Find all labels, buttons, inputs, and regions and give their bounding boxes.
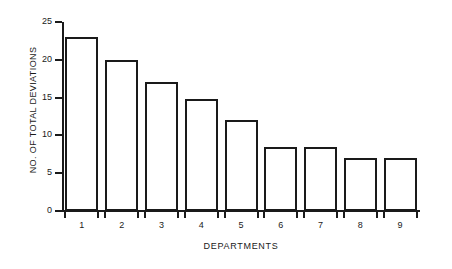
x-axis-title: DEPARTMENTS bbox=[62, 241, 420, 251]
x-tick-mark bbox=[383, 212, 385, 218]
y-tick-mark bbox=[55, 172, 62, 174]
bar bbox=[384, 158, 417, 211]
y-tick-mark bbox=[55, 59, 62, 61]
y-tick-label: 10 bbox=[28, 130, 52, 139]
x-tick-label: 5 bbox=[231, 221, 251, 230]
bar bbox=[225, 120, 258, 211]
x-tick-mark bbox=[137, 212, 139, 218]
x-tick-mark bbox=[104, 212, 106, 218]
bar bbox=[304, 147, 337, 211]
x-tick-mark bbox=[376, 212, 378, 218]
x-tick-label: 6 bbox=[271, 221, 291, 230]
bars-container bbox=[62, 22, 420, 211]
x-tick-label: 3 bbox=[151, 221, 171, 230]
x-tick-mark bbox=[64, 212, 66, 218]
x-tick-mark bbox=[296, 212, 298, 218]
y-tick-mark bbox=[55, 210, 62, 212]
x-tick-label: 9 bbox=[390, 221, 410, 230]
x-tick-mark bbox=[257, 212, 259, 218]
bar-chart: NO. OF TOTAL DEVIATIONS 0510152025 12345… bbox=[0, 0, 452, 269]
bar bbox=[185, 99, 218, 211]
y-tick-label: 0 bbox=[28, 206, 52, 215]
y-tick-label: 25 bbox=[28, 17, 52, 26]
x-tick-mark bbox=[343, 212, 345, 218]
x-tick-label: 8 bbox=[350, 221, 370, 230]
bar bbox=[264, 147, 297, 211]
x-tick-mark bbox=[416, 212, 418, 218]
bar bbox=[344, 158, 377, 211]
y-tick-mark bbox=[55, 21, 62, 23]
x-tick-mark bbox=[303, 212, 305, 218]
y-tick-label: 5 bbox=[28, 168, 52, 177]
x-tick-label: 1 bbox=[72, 221, 92, 230]
y-tick-label: 15 bbox=[28, 93, 52, 102]
x-tick-mark bbox=[224, 212, 226, 218]
y-tick-label: 20 bbox=[28, 55, 52, 64]
x-tick-mark bbox=[184, 212, 186, 218]
x-tick-mark bbox=[97, 212, 99, 218]
bar bbox=[145, 82, 178, 211]
x-tick-label: 7 bbox=[311, 221, 331, 230]
y-tick-mark bbox=[55, 134, 62, 136]
bar bbox=[65, 37, 98, 211]
y-tick-mark bbox=[55, 97, 62, 99]
x-tick-mark bbox=[177, 212, 179, 218]
x-tick-label: 4 bbox=[191, 221, 211, 230]
x-tick-mark bbox=[217, 212, 219, 218]
x-tick-label: 2 bbox=[112, 221, 132, 230]
x-tick-mark bbox=[263, 212, 265, 218]
x-tick-mark bbox=[336, 212, 338, 218]
x-tick-mark bbox=[144, 212, 146, 218]
bar bbox=[105, 60, 138, 211]
